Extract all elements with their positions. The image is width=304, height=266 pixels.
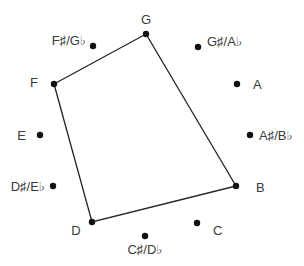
note-dot-d xyxy=(89,219,95,225)
note-label-g-sharp: G♯/A♭ xyxy=(207,34,242,49)
note-dot-g xyxy=(143,31,149,37)
note-dot-g-sharp xyxy=(195,44,201,50)
note-label-g: G xyxy=(141,12,151,27)
note-dot-f xyxy=(51,81,57,87)
note-label-f: F xyxy=(30,75,38,90)
note-label-c-sharp: C♯/D♭ xyxy=(127,242,162,257)
note-label-d: D xyxy=(71,223,80,238)
note-label-c: C xyxy=(213,223,222,238)
diagram-canvas: GG♯/A♭AA♯/B♭BCC♯/D♭DD♯/E♭EFF♯/G♭ xyxy=(0,0,304,266)
note-label-a-sharp: A♯/B♭ xyxy=(259,128,293,143)
note-label-d-sharp: D♯/E♭ xyxy=(11,179,45,194)
note-label-b: B xyxy=(256,180,265,195)
note-dot-c xyxy=(194,220,200,226)
note-dot-a-sharp xyxy=(247,132,253,138)
note-dot-d-sharp xyxy=(50,183,56,189)
notes-layer: GG♯/A♭AA♯/B♭BCC♯/D♭DD♯/E♭EFF♯/G♭ xyxy=(11,12,293,257)
note-dot-e xyxy=(37,132,43,138)
note-label-e: E xyxy=(17,128,26,143)
note-label-f-sharp: F♯/G♭ xyxy=(52,33,86,48)
chromatic-circle-diagram: GG♯/A♭AA♯/B♭BCC♯/D♭DD♯/E♭EFF♯/G♭ xyxy=(0,0,304,266)
note-dot-f-sharp xyxy=(90,43,96,49)
triad-polygon xyxy=(54,34,236,222)
note-dot-b xyxy=(233,183,239,189)
note-dot-c-sharp xyxy=(142,233,148,239)
note-label-a: A xyxy=(253,77,262,92)
note-dot-a xyxy=(234,81,240,87)
